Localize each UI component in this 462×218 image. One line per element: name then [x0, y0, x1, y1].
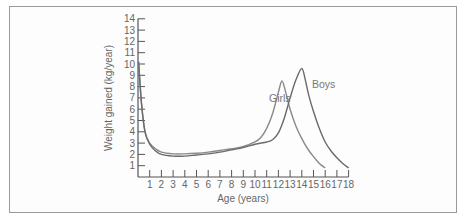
x-axis-title: Age (years) [217, 193, 269, 204]
y-tick-label: 2 [129, 149, 135, 160]
x-tick-label: 6 [205, 179, 211, 190]
x-tick-label: 15 [308, 179, 320, 190]
y-tick-label: 14 [124, 13, 136, 24]
y-tick-label: 11 [125, 47, 136, 58]
x-tick-label: 18 [343, 179, 355, 190]
y-tick-label: 13 [124, 25, 136, 36]
y-axis-title: Weight gained (kg/year) [103, 45, 114, 151]
x-tick-label: 17 [331, 179, 343, 190]
y-tick-label: 7 [129, 92, 135, 103]
y-tick-label: 9 [129, 70, 135, 81]
x-tick-label: 7 [217, 179, 223, 190]
y-tick-label: 3 [129, 138, 135, 149]
x-tick-label: 16 [320, 179, 332, 190]
x-tick-label: 4 [182, 179, 188, 190]
y-tick-label: 8 [129, 81, 135, 92]
x-tick-label: 1 [147, 179, 153, 190]
x-tick-label: 14 [296, 179, 308, 190]
y-tick-label: 5 [129, 115, 135, 126]
y-tick-label: 10 [124, 59, 136, 70]
x-tick-label: 3 [170, 179, 176, 190]
x-tick-label: 13 [285, 179, 297, 190]
y-tick-label: 4 [129, 126, 135, 137]
x-tick-label: 5 [194, 179, 200, 190]
x-tick-label: 9 [241, 179, 247, 190]
girls-series-label: Girls [269, 92, 291, 104]
x-tick-label: 12 [273, 179, 285, 190]
y-tick-label: 12 [124, 36, 136, 47]
weight-gain-chart: 1234567891011121314123456789101112131415… [0, 0, 462, 218]
y-tick-label: 6 [129, 104, 135, 115]
x-tick-label: 8 [229, 179, 235, 190]
boys-series-label: Boys [312, 78, 335, 90]
x-tick-label: 11 [262, 179, 273, 190]
x-tick-label: 2 [159, 179, 165, 190]
x-tick-label: 10 [249, 179, 261, 190]
y-tick-label: 1 [129, 160, 135, 171]
